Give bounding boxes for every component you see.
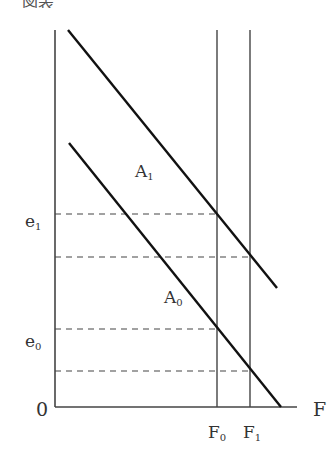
curve-a0 bbox=[69, 143, 281, 407]
label-f0: F0 bbox=[208, 422, 226, 443]
label-origin: 0 bbox=[36, 398, 48, 420]
economic-diagram: A1 A0 e1 e0 0 F F0 F1 bbox=[0, 0, 329, 476]
label-a1: A1 bbox=[134, 161, 154, 182]
label-a0: A0 bbox=[163, 287, 183, 308]
label-x-axis: F bbox=[313, 398, 326, 420]
label-e0: e0 bbox=[25, 331, 41, 352]
label-f1: F1 bbox=[243, 422, 261, 443]
label-e1: e1 bbox=[25, 211, 41, 232]
curve-a1 bbox=[68, 30, 277, 288]
